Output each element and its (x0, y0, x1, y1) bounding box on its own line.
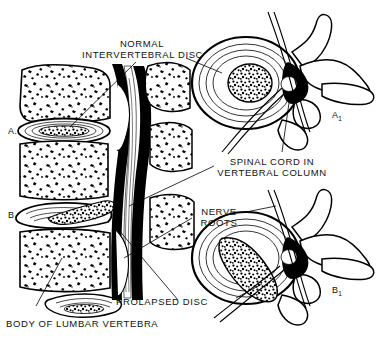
panel-label-b1: B1 (332, 285, 342, 299)
footer-caption-fragment (4, 338, 154, 345)
normal-intervertebral-disc (18, 119, 110, 144)
vertebral-body-upper (20, 65, 110, 123)
anatomical-figure: NORMAL INTERVERTEBRAL DISC SPINAL CORD I… (0, 0, 380, 345)
sagittal-section (16, 63, 194, 318)
label-nerve-roots-line1: NERVE (190, 206, 248, 217)
panel-label-a1: A1 (332, 110, 342, 124)
label-nerve-roots-line2: ROOTS (190, 217, 248, 228)
label-normal-disc-line2: INTERVERTEBRAL DISC (82, 49, 202, 60)
disc-bottom-partial (45, 294, 121, 317)
panel-label-a: A. (8, 126, 17, 137)
prolapsed-disc (16, 201, 115, 228)
posterior-elements-sagittal (111, 64, 151, 300)
panel-label-a1-subscript: 1 (338, 115, 342, 122)
panel-label-b1-subscript: 1 (338, 290, 342, 297)
axial-section-normal (192, 12, 374, 154)
label-spinal-cord-line2: VERTEBRAL COLUMN (213, 167, 331, 178)
label-body-of-lumbar-vertebra: BODY OF LUMBAR VERTEBRA (6, 318, 176, 329)
vertebral-body-lower (20, 229, 110, 292)
label-normal-intervertebral-disc: NORMAL INTERVERTEBRAL DISC (82, 38, 202, 60)
label-spinal-cord-in-vertebral-column: SPINAL CORD IN VERTEBRAL COLUMN (213, 156, 331, 178)
label-normal-disc-line1: NORMAL (82, 38, 202, 49)
label-nerve-roots: NERVE ROOTS (190, 206, 248, 228)
leader-nerve-roots-axial (246, 206, 276, 212)
nucleus-pulposus-normal (228, 64, 272, 102)
label-prolapsed-disc: PROLAPSED DISC (112, 296, 212, 307)
vertebral-body-middle (20, 141, 108, 200)
panel-label-b: B. (8, 210, 17, 221)
label-spinal-cord-line1: SPINAL CORD IN (213, 156, 331, 167)
